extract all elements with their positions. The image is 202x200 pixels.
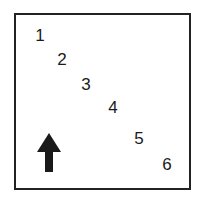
arrow-up-icon [37,133,61,172]
label-5: 5 [134,130,143,147]
label-4: 4 [108,99,117,116]
label-1: 1 [35,27,44,44]
label-6: 6 [162,156,171,173]
label-3: 3 [81,76,90,93]
label-2: 2 [57,51,66,68]
